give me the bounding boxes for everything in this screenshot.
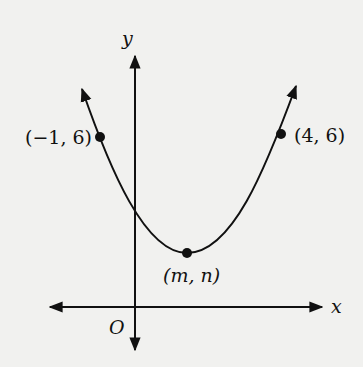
vertex-label: (m, n)	[163, 264, 220, 286]
point-right	[276, 129, 286, 139]
parabola-curve	[82, 86, 296, 253]
y-axis-label: y	[121, 27, 133, 49]
parabola-diagram: y x O (−1, 6) (4, 6) (m, n)	[0, 0, 363, 367]
point-left-label: (−1, 6)	[25, 126, 92, 148]
point-right-label: (4, 6)	[294, 124, 345, 146]
point-left	[95, 132, 105, 142]
origin-label: O	[109, 316, 125, 338]
x-axis-label: x	[331, 295, 342, 317]
vertex-point	[182, 248, 192, 258]
